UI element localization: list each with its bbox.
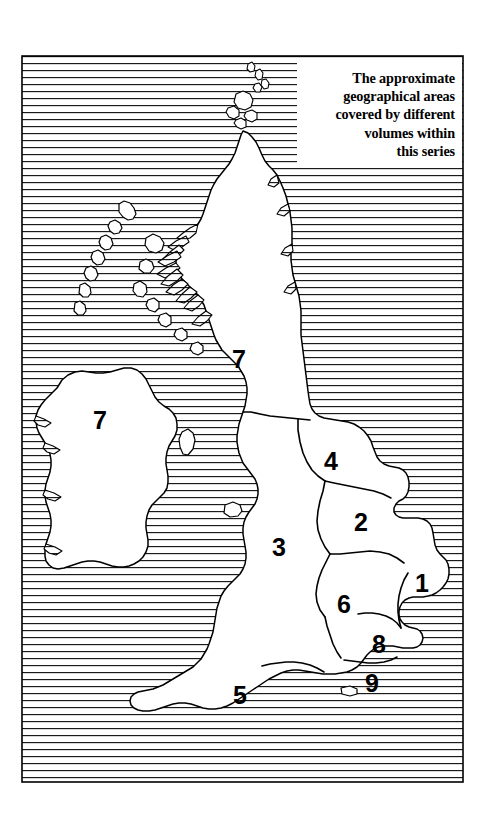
caption-line-2: geographical areas <box>303 87 455 105</box>
region-label-7-northern-ireland: 7 <box>93 406 107 434</box>
region-label-7-scotland: 7 <box>232 345 246 373</box>
region-label-3: 3 <box>272 533 286 561</box>
region-label-9: 9 <box>365 669 379 697</box>
isle-of-wight <box>341 686 357 696</box>
caption-line-4: volumes within <box>303 124 455 142</box>
region-label-5: 5 <box>233 681 247 709</box>
map-caption: The approximate geographical areas cover… <box>297 63 462 167</box>
map-figure: 7 7 4 2 3 1 6 8 9 5 The approximate geog… <box>0 0 485 826</box>
caption-line-1: The approximate <box>303 69 455 87</box>
anglesey <box>224 502 242 517</box>
region-label-8: 8 <box>372 630 386 658</box>
region-label-6: 6 <box>337 590 351 618</box>
region-label-1: 1 <box>415 569 429 597</box>
region-label-4: 4 <box>324 447 338 475</box>
caption-line-5: this series <box>303 142 455 160</box>
region-label-2: 2 <box>354 508 368 536</box>
caption-line-3: covered by different <box>303 105 455 123</box>
